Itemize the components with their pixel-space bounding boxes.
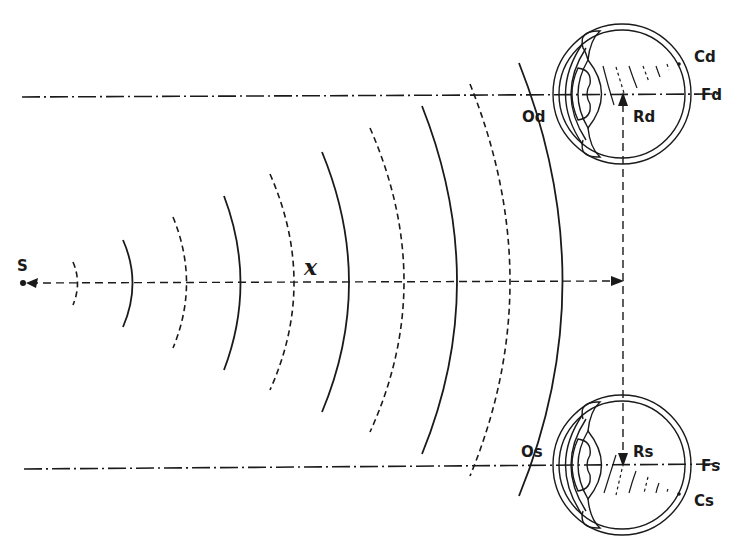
label-fd: Fd <box>701 86 722 104</box>
wavefront-2 <box>123 240 133 327</box>
wavefront-eye-diagram: S x Od Rd Fd Cd Os Rs Fs Cs <box>0 0 742 549</box>
source-arrowhead-left <box>26 278 38 288</box>
label-os: Os <box>521 443 543 461</box>
label-distance-x: x <box>303 254 318 280</box>
wavefront-9 <box>470 84 510 476</box>
label-cd: Cd <box>694 48 716 66</box>
label-cs: Cs <box>694 492 714 510</box>
wavefront-7 <box>370 128 404 432</box>
wavefronts <box>73 63 563 496</box>
wavefront-10 <box>519 63 563 496</box>
right-eye-visual-axis <box>22 94 722 97</box>
label-od: Od <box>522 108 546 126</box>
label-source: S <box>17 257 28 275</box>
label-rd: Rd <box>633 108 655 126</box>
label-fs: Fs <box>701 457 720 475</box>
left-eye-visual-axis <box>24 464 722 469</box>
source-ray <box>30 281 614 283</box>
source-point-icon <box>20 280 26 286</box>
label-rs: Rs <box>633 443 654 461</box>
wavefront-8 <box>422 106 457 454</box>
ray-arrowhead-right <box>611 276 624 286</box>
